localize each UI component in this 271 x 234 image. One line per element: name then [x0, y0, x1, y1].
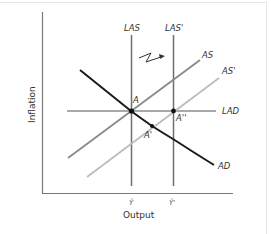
point-a: [129, 108, 134, 113]
las-prime-label: LAS': [165, 23, 183, 33]
point-a-double-prime-label: A'': [175, 113, 187, 123]
y-axis-label: Inflation: [27, 86, 37, 123]
ad-curve: [80, 70, 214, 165]
las-label: LAS: [124, 23, 141, 33]
point-a-label: A: [132, 95, 139, 105]
x-axis-label: Output: [123, 210, 155, 220]
as-label: AS: [201, 50, 214, 60]
x-tick-ybar-prime: Ȳ': [169, 198, 175, 207]
point-a-prime: [150, 124, 154, 128]
x-tick-ybar: Ȳ: [129, 198, 134, 207]
point-a-prime-label: A': [143, 130, 152, 140]
as-prime-label: AS': [221, 66, 236, 76]
shock-arrow-icon: [139, 53, 165, 62]
ad-label: AD: [217, 161, 231, 171]
lad-label: LAD: [222, 106, 240, 116]
as-ad-diagram: LAS LAS' AS AS' LAD AD A A'' A' Ȳ Ȳ' Out…: [0, 0, 271, 234]
